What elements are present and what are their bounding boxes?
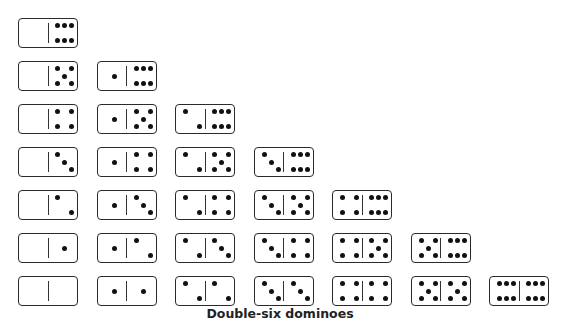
pip-dot: [455, 289, 460, 294]
pip-dot: [148, 152, 153, 157]
pip-dot: [55, 195, 60, 200]
left-half-3-pips: [255, 234, 284, 262]
pip-dot: [112, 203, 117, 208]
pip-dot: [433, 253, 438, 258]
right-half-5-pips: [362, 234, 391, 262]
left-half-3-pips: [255, 148, 284, 176]
left-half-6-pips: [490, 277, 519, 305]
pip-dot: [383, 281, 388, 286]
pip-dot: [298, 203, 303, 208]
pip-dot: [134, 81, 139, 86]
domino-4-5: [332, 233, 392, 263]
pip-dot: [134, 167, 139, 172]
pip-dot: [183, 238, 188, 243]
pip-dot: [376, 210, 381, 215]
pip-dot: [369, 238, 374, 243]
domino-divider: [362, 195, 363, 215]
left-half-2-pips: [176, 277, 205, 305]
domino-divider: [126, 66, 127, 86]
pip-dot: [497, 296, 502, 301]
domino-2-2: [175, 276, 235, 306]
pip-dot: [69, 109, 74, 114]
pip-dot: [383, 296, 388, 301]
pip-dot: [212, 124, 217, 129]
left-half-2-pips: [176, 191, 205, 219]
domino-divider: [48, 238, 49, 258]
pip-dot: [226, 195, 231, 200]
pip-dot: [462, 296, 467, 301]
right-half-6-pips: [362, 191, 391, 219]
domino-1-3: [97, 190, 157, 220]
pip-dot: [112, 74, 117, 79]
pip-dot: [504, 281, 509, 286]
pip-dot: [383, 253, 388, 258]
domino-divider: [362, 238, 363, 258]
pip-dot: [533, 296, 538, 301]
pip-dot: [212, 152, 217, 157]
pip-dot: [354, 296, 359, 301]
pip-dot: [369, 210, 374, 215]
pip-dot: [369, 296, 374, 301]
pip-dot: [354, 195, 359, 200]
domino-divider: [126, 238, 127, 258]
right-half-6-pips: [48, 19, 77, 47]
left-half-3-pips: [255, 277, 284, 305]
right-half-5-pips: [441, 277, 470, 305]
right-half-5-pips: [284, 191, 313, 219]
pip-dot: [269, 289, 274, 294]
pip-dot: [376, 195, 381, 200]
pip-dot: [141, 289, 146, 294]
domino-2-4: [175, 190, 235, 220]
pip-dot: [134, 124, 139, 129]
domino-6-6: [489, 276, 549, 306]
domino-divider: [126, 152, 127, 172]
pip-dot: [426, 246, 431, 251]
pip-dot: [291, 195, 296, 200]
domino-divider: [48, 152, 49, 172]
domino-4-4: [332, 276, 392, 306]
pip-dot: [134, 66, 139, 71]
domino-1-4: [97, 147, 157, 177]
left-half-0-pips: [19, 105, 48, 133]
right-half-4-pips: [127, 148, 156, 176]
pip-dot: [291, 238, 296, 243]
pip-dot: [55, 109, 60, 114]
pip-dot: [276, 253, 281, 258]
right-half-6-pips: [441, 234, 470, 262]
pip-dot: [134, 195, 139, 200]
pip-dot: [269, 160, 274, 165]
domino-divider: [519, 281, 520, 301]
left-half-1-pips: [98, 105, 127, 133]
pip-dot: [226, 210, 231, 215]
pip-dot: [219, 124, 224, 129]
domino-divider: [205, 195, 206, 215]
pip-dot: [141, 81, 146, 86]
pip-dot: [448, 296, 453, 301]
pip-dot: [419, 238, 424, 243]
pip-dot: [148, 66, 153, 71]
domino-2-6: [175, 104, 235, 134]
pip-dot: [55, 152, 60, 157]
left-half-0-pips: [19, 19, 48, 47]
pip-dot: [340, 238, 345, 243]
pip-dot: [212, 210, 217, 215]
pip-dot: [262, 195, 267, 200]
domino-0-3: [18, 147, 78, 177]
pip-dot: [340, 281, 345, 286]
domino-3-3: [254, 276, 314, 306]
pip-dot: [269, 246, 274, 251]
pip-dot: [148, 109, 153, 114]
pip-dot: [269, 203, 274, 208]
right-half-3-pips: [284, 277, 313, 305]
domino-divider: [440, 238, 441, 258]
pip-dot: [69, 66, 74, 71]
pip-dot: [69, 81, 74, 86]
pip-dot: [291, 152, 296, 157]
left-half-1-pips: [98, 191, 127, 219]
pip-dot: [419, 281, 424, 286]
pip-dot: [383, 195, 388, 200]
pip-dot: [183, 109, 188, 114]
domino-divider: [48, 109, 49, 129]
pip-dot: [305, 167, 310, 172]
pip-dot: [226, 167, 231, 172]
